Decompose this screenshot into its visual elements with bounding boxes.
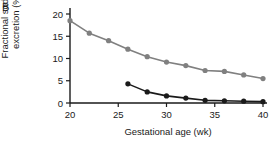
data-point (125, 81, 130, 86)
data-point (145, 89, 150, 94)
x-tick-label: 30 (161, 109, 172, 120)
x-tick-label: 40 (258, 109, 269, 120)
series-line (70, 21, 263, 79)
data-point (67, 18, 72, 23)
y-tick-label: 10 (52, 53, 63, 64)
data-point (241, 72, 246, 77)
data-point (125, 47, 130, 52)
data-point (87, 31, 92, 36)
x-tick-label: 20 (65, 109, 76, 120)
data-point (183, 96, 188, 101)
data-point (260, 99, 265, 104)
plot-area: 2025303540 05101520 (0, 0, 278, 143)
x-tick-label: 25 (113, 109, 124, 120)
y-tick-label: 20 (52, 9, 63, 20)
chart-panel: B Fractional sodium excretion (%) 202530… (0, 0, 278, 143)
data-point (203, 68, 208, 73)
data-point (222, 69, 227, 74)
series-dark-series (125, 81, 265, 104)
y-tick-label: 5 (58, 75, 63, 86)
y-tick-labels: 05101520 (52, 9, 63, 109)
y-tick-label: 15 (52, 31, 63, 42)
data-point (106, 38, 111, 43)
data-point (260, 76, 265, 81)
data-point (164, 93, 169, 98)
data-point (145, 54, 150, 59)
y-tick-label: 0 (58, 98, 63, 109)
series-gray-series (67, 18, 265, 81)
data-point (183, 63, 188, 68)
x-tick-label: 35 (209, 109, 220, 120)
x-axis-label: Gestational age (wk) (70, 126, 266, 137)
axes (66, 8, 267, 107)
x-tick-labels: 2025303540 (65, 109, 269, 120)
data-point (164, 59, 169, 64)
data-point (222, 98, 227, 103)
data-series (67, 18, 265, 104)
data-point (203, 98, 208, 103)
data-point (241, 99, 246, 104)
